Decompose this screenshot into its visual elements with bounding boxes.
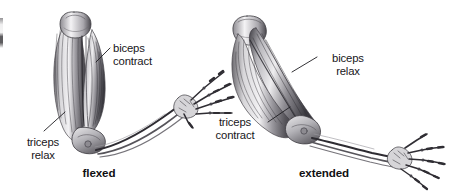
label-triceps-relax: triceps relax [12,136,74,161]
flexed-wrist [174,95,198,118]
caption-flexed: flexed [64,166,134,179]
leader-line-biceps-relax [292,57,317,72]
label-biceps-contract: biceps contract [113,42,152,67]
leader-line-biceps-contract [96,48,110,62]
label-biceps-relax: biceps relax [320,52,376,77]
leader-line-triceps-contract [268,107,290,122]
page-edge-artifact [0,18,3,48]
extended-arm-drawing [232,16,445,189]
leader-line-triceps-relax [44,112,65,131]
extended-hand-bones [401,134,445,189]
label-triceps-contract: triceps contract [200,116,270,141]
caption-extended: extended [283,166,365,179]
arm-muscle-figure: biceps contract triceps relax biceps rel… [0,0,467,196]
extended-wrist [387,147,412,169]
